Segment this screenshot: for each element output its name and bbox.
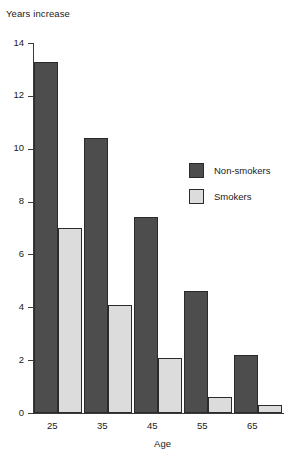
x-axis-tick-label: 45 xyxy=(134,420,184,431)
x-axis-tick-label: 55 xyxy=(184,420,234,431)
bar-group xyxy=(134,43,184,413)
y-axis-tick-label: 12 xyxy=(2,89,24,100)
y-axis-tick-label: 6 xyxy=(2,248,24,259)
bar-groups xyxy=(34,43,284,413)
y-axis-title: Years increase xyxy=(6,8,70,19)
plot-area: 02468101214 xyxy=(33,43,284,414)
chart-legend: Non-smokers Smokers xyxy=(189,163,271,215)
y-axis-tick-label: 8 xyxy=(2,195,24,206)
y-axis-tick-label: 2 xyxy=(2,354,24,365)
x-axis-line xyxy=(33,413,284,414)
legend-swatch-smokers xyxy=(189,189,204,204)
y-axis-tick-label: 14 xyxy=(2,37,24,48)
legend-label-smokers: Smokers xyxy=(214,191,251,202)
y-axis-tick: 12 xyxy=(28,96,33,97)
legend-swatch-non-smokers xyxy=(189,163,204,178)
y-axis-tick: 14 xyxy=(28,43,33,44)
legend-label-non-smokers: Non-smokers xyxy=(214,165,271,176)
legend-item-non-smokers: Non-smokers xyxy=(189,163,271,178)
bar-group xyxy=(34,43,84,413)
bar xyxy=(184,291,208,413)
y-axis-tick: 6 xyxy=(28,254,33,255)
bar xyxy=(58,228,82,413)
bar xyxy=(208,397,232,413)
y-axis-tick-label: 10 xyxy=(2,142,24,153)
y-axis-tick: 0 xyxy=(28,413,33,414)
x-axis-tick-label: 65 xyxy=(234,420,284,431)
bar xyxy=(158,358,182,414)
bar xyxy=(258,405,282,413)
bar xyxy=(108,305,132,413)
x-axis-title-text: Age xyxy=(126,438,171,449)
y-axis-tick-label: 0 xyxy=(2,407,24,418)
y-axis-tick: 4 xyxy=(28,307,33,308)
bar xyxy=(34,62,58,414)
bar-group xyxy=(84,43,134,413)
x-axis-tick-labels: 2535455565 xyxy=(34,420,284,431)
bar-group xyxy=(184,43,234,413)
x-axis-title: Age xyxy=(0,438,297,449)
y-axis-tick: 2 xyxy=(28,360,33,361)
x-axis-tick-label: 25 xyxy=(34,420,84,431)
y-axis-tick: 10 xyxy=(28,149,33,150)
bar xyxy=(84,138,108,413)
bar xyxy=(134,217,158,413)
bar xyxy=(234,355,258,413)
bar-group xyxy=(234,43,284,413)
y-axis-tick-label: 4 xyxy=(2,301,24,312)
y-axis-tick: 8 xyxy=(28,202,33,203)
x-axis-tick-label: 35 xyxy=(84,420,134,431)
legend-item-smokers: Smokers xyxy=(189,189,271,204)
